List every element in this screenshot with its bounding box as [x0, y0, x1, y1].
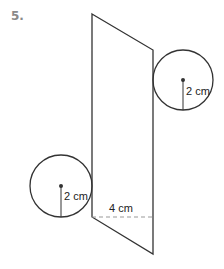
- radius-label: 2 cm: [186, 85, 210, 97]
- radius-label: 2 cm: [64, 190, 88, 202]
- width-label: 4 cm: [109, 202, 133, 214]
- cylinder-net-diagram: 4 cm 2 cm 2 cm: [0, 0, 224, 269]
- parallelogram: [92, 14, 153, 254]
- bottom-left-circle: 2 cm: [30, 155, 92, 217]
- top-right-circle: 2 cm: [153, 50, 213, 110]
